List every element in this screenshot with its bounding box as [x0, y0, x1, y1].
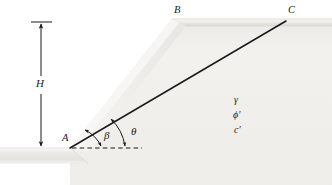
- diagram-canvas: [0, 0, 332, 185]
- label-point-b: B: [174, 5, 180, 16]
- crest-band: [172, 19, 332, 26]
- label-angle-beta: β: [104, 130, 109, 141]
- label-friction-angle: ϕ′: [233, 110, 240, 120]
- soil-mass: [70, 19, 332, 185]
- label-point-a: A: [62, 133, 68, 144]
- crest-surface: [172, 19, 332, 26]
- label-point-c: C: [288, 5, 295, 16]
- label-angle-theta: θ: [131, 126, 136, 137]
- label-height: H: [36, 78, 44, 89]
- label-unit-weight: γ: [234, 95, 238, 105]
- slope-stability-figure: A B C H β θ γ ϕ′ c′: [0, 0, 332, 185]
- label-cohesion: c′: [234, 125, 241, 135]
